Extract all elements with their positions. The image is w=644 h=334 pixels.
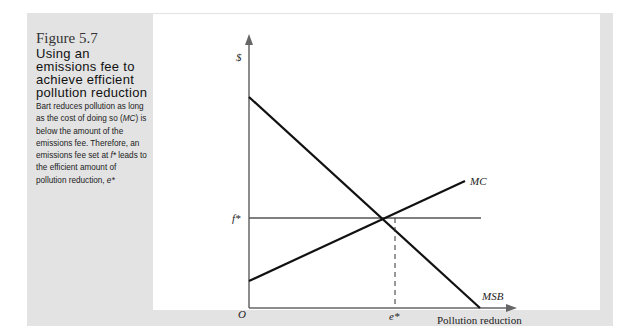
origin-label: O	[238, 308, 246, 320]
msb-label: MSB	[481, 290, 504, 302]
x-axis-arrow-icon	[506, 304, 517, 312]
fee-label: f*	[232, 212, 241, 224]
efficient-label: e*	[389, 310, 400, 322]
mc-label: MC	[469, 175, 487, 187]
y-axis-arrow-icon	[245, 34, 253, 45]
msb-curve	[249, 97, 480, 308]
y-axis-label: $	[236, 51, 242, 63]
chart-svg: $ f* O e* MC MSB Pollution reduction	[0, 0, 644, 334]
x-axis-label: Pollution reduction	[437, 314, 522, 326]
